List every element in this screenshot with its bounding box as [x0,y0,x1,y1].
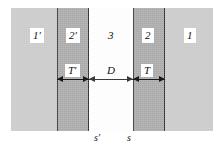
arrowhead-left-icon [57,76,63,82]
region-label-3: 3 [105,28,117,43]
dimension-label-D: D [104,64,118,77]
region-label-2: 2 [142,28,154,43]
dimension-arrow-T [133,79,165,80]
arrowhead-left-icon [89,76,95,82]
figure-canvas: 1′ 2′ 3 2 1 T′ D T s′ s [0,0,224,150]
region-1 [165,8,213,131]
arrowhead-left-icon [133,76,139,82]
dimension-arrow-D [89,79,133,80]
dimension-label-T: T [141,64,153,77]
dimension-arrow-Tprime [57,79,89,80]
dimension-label-Tprime: T′ [65,64,80,77]
arrowhead-right-icon [159,76,165,82]
region-label-2prime: 2′ [66,28,80,43]
interface-label-sprime: s′ [94,132,100,144]
region-label-1: 1 [184,28,196,43]
interface-label-s: s [127,132,131,144]
region-label-1prime: 1′ [30,28,44,43]
region-1prime [11,8,57,131]
